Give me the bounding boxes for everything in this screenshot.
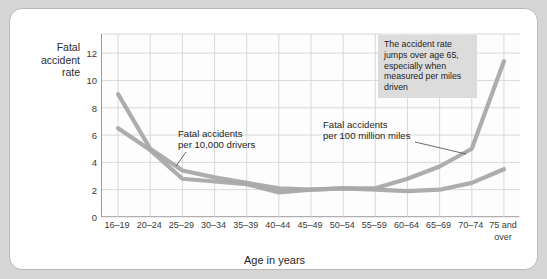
callout-annotation-box: The accident rate jumps over age 65, esp… (378, 35, 477, 98)
y-tick-label: 10 (77, 75, 97, 86)
y-tick-label: 4 (77, 157, 97, 168)
figure-card: Fatal accident rate 024681012 16–1920–24… (9, 8, 538, 270)
x-axis-tick-labels: 16–1920–2425–2930–3435–3940–4445–4950–54… (101, 220, 519, 254)
y-tick-label: 12 (77, 48, 97, 59)
series-label-drivers: Fatal accidents per 10,000 drivers (178, 128, 255, 151)
x-tick-label: 75 and over (480, 220, 526, 243)
y-axis-tick-labels: 024681012 (74, 34, 97, 217)
y-axis-title-line-3: rate (22, 66, 80, 79)
x-axis-title: Age in years (10, 254, 539, 266)
y-axis-title-line-2: accident (22, 54, 80, 67)
y-axis-title: Fatal accident rate (22, 41, 80, 79)
y-tick-label: 8 (77, 102, 97, 113)
series-label-miles: Fatal accidents per 100 million miles (323, 119, 410, 142)
series-line-1 (118, 128, 504, 192)
y-tick-label: 2 (77, 184, 97, 195)
y-axis-title-line-1: Fatal (22, 41, 80, 54)
y-tick-label: 6 (77, 130, 97, 141)
figure-root: Fatal accident rate 024681012 16–1920–24… (0, 0, 547, 279)
